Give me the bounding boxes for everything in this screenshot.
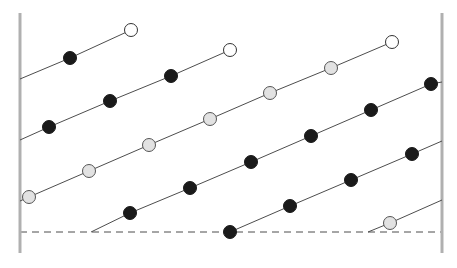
series-5-filled-circle-2[interactable]	[345, 174, 358, 187]
series-3-shaded-circle-2[interactable]	[143, 139, 156, 152]
series-2-filled-circle-0[interactable]	[43, 121, 56, 134]
series-3-shaded-circle-3[interactable]	[204, 113, 217, 126]
series-3-open-circle-6[interactable]	[386, 36, 399, 49]
series-3-shaded-circle-0[interactable]	[23, 191, 36, 204]
series-2-filled-circle-1[interactable]	[104, 95, 117, 108]
series-5-filled-circle-0[interactable]	[224, 226, 237, 239]
series-4-filled-circle-1[interactable]	[184, 182, 197, 195]
series-6-shaded-circle-0[interactable]	[384, 217, 397, 230]
series-4-filled-circle-0[interactable]	[124, 207, 137, 220]
series-2-open-circle-3[interactable]	[224, 44, 237, 57]
series-2-filled-circle-2[interactable]	[165, 70, 178, 83]
series-3-shaded-circle-4[interactable]	[264, 87, 277, 100]
series-4-filled-circle-3[interactable]	[305, 130, 318, 143]
series-1-filled-circle-0[interactable]	[64, 52, 77, 65]
series-3-shaded-circle-1[interactable]	[83, 165, 96, 178]
series-4-filled-circle-4[interactable]	[365, 104, 378, 117]
series-1-open-circle-1[interactable]	[125, 24, 138, 37]
series-5-filled-circle-1[interactable]	[284, 200, 297, 213]
figure-canvas-container	[0, 0, 457, 268]
series-5-filled-circle-3[interactable]	[406, 148, 419, 161]
scatter-line-chart	[0, 0, 457, 268]
series-4-filled-circle-5[interactable]	[425, 78, 438, 91]
series-3-shaded-circle-5[interactable]	[325, 62, 338, 75]
series-4-filled-circle-2[interactable]	[245, 156, 258, 169]
